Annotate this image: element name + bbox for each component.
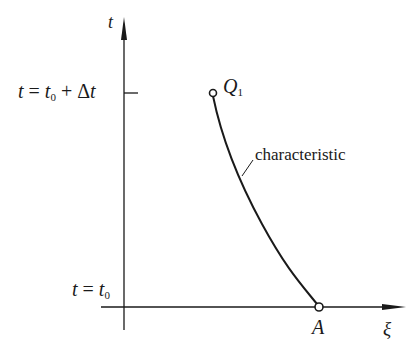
diagram-canvas (0, 0, 419, 348)
xi-axis-arrow-icon (382, 304, 406, 310)
t-axis-arrow-icon (121, 17, 127, 40)
a-label: A (312, 316, 324, 339)
upper-t: t (18, 80, 24, 102)
upper-plus: + (61, 80, 72, 102)
q1-name: Q (223, 75, 237, 97)
characteristic-diagram: t ξ t = t0 + Δt t = t0 Q1 A characterist… (0, 0, 419, 348)
lower-sub: 0 (104, 289, 110, 301)
point-q1-icon (210, 90, 217, 97)
t-axis-label: t (108, 12, 113, 33)
point-a-icon (315, 303, 323, 311)
xi-axis-label: ξ (383, 318, 391, 340)
upper-dt: t (90, 80, 96, 102)
leader-line (242, 160, 253, 176)
upper-sub: 0 (50, 91, 56, 103)
lower-tick-label: t = t0 (72, 278, 110, 301)
characteristic-label: characteristic (255, 145, 346, 165)
lower-eq: = (83, 278, 94, 300)
lower-t: t (72, 278, 78, 300)
characteristic-curve (213, 96, 317, 304)
q1-label: Q1 (223, 75, 243, 98)
q1-sub: 1 (237, 86, 243, 98)
upper-tick-label: t = t0 + Δt (18, 80, 96, 103)
upper-delta: Δ (77, 80, 90, 102)
upper-eq: = (29, 80, 40, 102)
